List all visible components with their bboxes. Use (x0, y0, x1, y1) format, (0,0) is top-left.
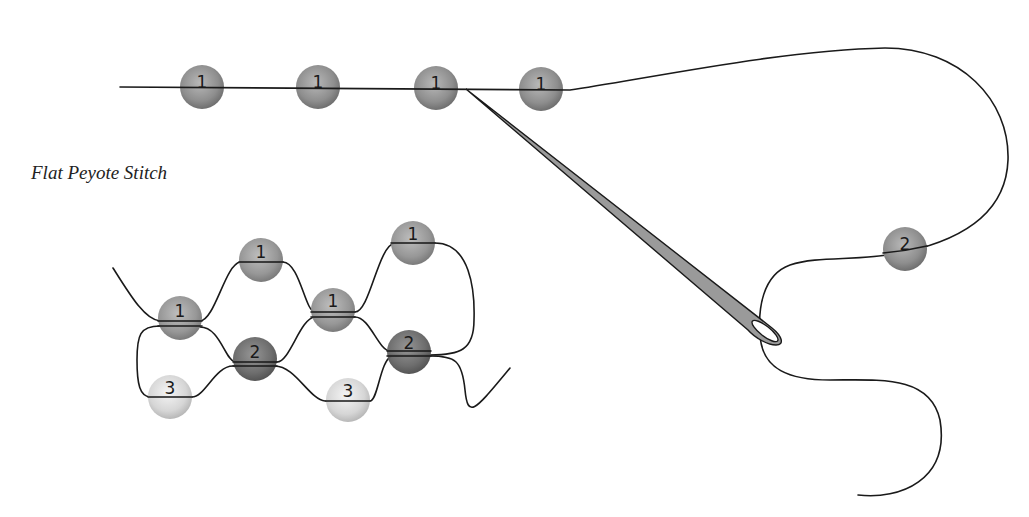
svg-text:1: 1 (431, 73, 442, 93)
bead-2-on-thread: 2 (883, 227, 927, 271)
bead-1: 1 (414, 66, 458, 110)
peyote-stitch-diagram: 1 1 1 1 2 (0, 0, 1029, 517)
svg-text:1: 1 (256, 242, 267, 262)
svg-text:2: 2 (404, 333, 415, 353)
bead-row1: 1 (158, 296, 202, 340)
svg-text:1: 1 (536, 74, 547, 94)
svg-text:1: 1 (197, 72, 208, 92)
bead-1: 1 (296, 65, 340, 109)
bead-row1: 1 (391, 221, 435, 265)
bead-row1: 1 (239, 238, 283, 282)
svg-text:1: 1 (328, 291, 339, 311)
svg-text:3: 3 (165, 378, 176, 398)
bead-row3: 3 (326, 378, 370, 422)
svg-text:3: 3 (343, 381, 354, 401)
stitch-beads: 1 1 1 1 2 2 3 (148, 221, 435, 422)
bead-row2: 2 (233, 337, 277, 381)
svg-text:1: 1 (175, 301, 186, 321)
bead-row2: 2 (387, 330, 431, 374)
bead-row1: 1 (311, 288, 355, 332)
svg-text:2: 2 (900, 234, 911, 254)
needle-icon (466, 89, 781, 345)
svg-text:1: 1 (408, 224, 419, 244)
svg-text:2: 2 (250, 342, 261, 362)
bead-row3: 3 (148, 375, 192, 419)
